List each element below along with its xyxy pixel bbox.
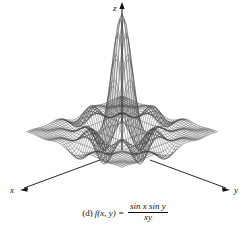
caption-fraction: sin x sin y xy <box>128 202 168 223</box>
caption-denominator: xy <box>142 213 154 222</box>
caption-numerator: sin x sin y <box>128 202 168 211</box>
figure-caption: (d) f(x, y) = sin x sin y xy <box>0 203 250 224</box>
caption-function-prefix: f(x, y) = <box>95 208 124 218</box>
surface-plot-figure: x y z <box>0 0 250 226</box>
y-axis-label: y <box>233 185 238 195</box>
caption-index: (d) <box>82 208 93 218</box>
x-axis-label: x <box>9 185 14 195</box>
z-axis-label: z <box>112 3 117 13</box>
